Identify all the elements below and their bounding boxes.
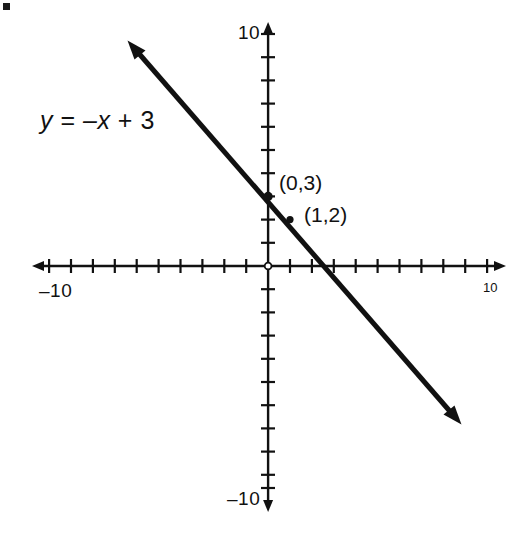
y-axis-max-label: 10 [238,23,260,42]
point-label-1-2: (1,2) [304,204,347,225]
origin-marker-icon [265,263,272,270]
line-segment [135,49,454,416]
x-axis-max-label: 10 [483,281,497,294]
data-point-1-2 [286,216,293,223]
equation-rhs-variable: –x [83,106,110,134]
equation-equals: = [53,106,83,134]
coordinate-plane [0,0,524,534]
y-axis-bottom-arrow-icon [263,500,273,512]
graph-figure: 10 –10 –10 10 y = –x + 3 (0,3) (1,2) [0,0,524,534]
x-axis-right-arrow-icon [494,261,506,271]
y-axis-min-label: –10 [227,489,260,508]
equation-lhs: y [40,106,53,134]
y-axis-top-arrow-icon [263,22,273,34]
point-label-0-3: (0,3) [279,172,322,193]
line-series-y-equals-minus-x-plus-3 [128,41,462,425]
equation-rhs-constant: + 3 [110,106,154,134]
x-axis-min-label: –10 [39,281,72,300]
data-point-0-3 [264,192,273,201]
x-axis-left-arrow-icon [32,261,44,271]
equation-label: y = –x + 3 [40,108,155,133]
